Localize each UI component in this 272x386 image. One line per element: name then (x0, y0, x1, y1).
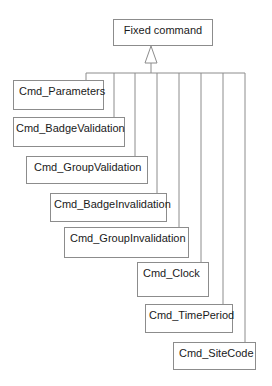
class-box-cmd-badge-validation: Cmd_BadgeValidation (13, 117, 125, 147)
class-box-cmd-time-period: Cmd_TimePeriod (145, 304, 233, 333)
class-box-fixed-command: Fixed command (113, 19, 213, 46)
class-label: Cmd_GroupInvalidation (70, 232, 186, 244)
class-label: Cmd_BadgeInvalidation (54, 198, 171, 210)
class-box-cmd-parameters: Cmd_Parameters (13, 80, 104, 110)
class-label: Cmd_GroupValidation (34, 161, 141, 173)
inheritance-diagram: Fixed command Cmd_Parameters Cmd_BadgeVa… (0, 0, 272, 386)
inheritance-arrow-icon (145, 46, 157, 63)
class-label: Cmd_BadgeValidation (16, 122, 125, 134)
class-label: Cmd_Clock (143, 267, 200, 279)
class-box-cmd-group-invalidation: Cmd_GroupInvalidation (64, 227, 189, 258)
class-label: Cmd_TimePeriod (149, 309, 234, 321)
class-box-cmd-clock: Cmd_Clock (137, 262, 209, 297)
class-label: Fixed command (124, 24, 202, 36)
class-box-cmd-group-validation: Cmd_GroupValidation (26, 156, 148, 184)
class-box-cmd-site-code: Cmd_SiteCode (173, 342, 256, 370)
class-label: Cmd_SiteCode (179, 347, 254, 359)
class-box-cmd-badge-invalidation: Cmd_BadgeInvalidation (50, 193, 167, 222)
class-label: Cmd_Parameters (19, 85, 105, 97)
